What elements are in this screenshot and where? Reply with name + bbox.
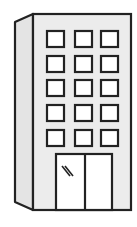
window-icon bbox=[101, 31, 118, 47]
window-icon bbox=[101, 56, 118, 72]
window-icon bbox=[47, 105, 64, 121]
window-icon bbox=[75, 31, 92, 47]
window-icon bbox=[47, 130, 64, 146]
window-icon bbox=[75, 56, 92, 72]
building-side-face bbox=[15, 14, 33, 210]
window-icon bbox=[75, 80, 92, 96]
building-illustration bbox=[0, 0, 137, 227]
window-icon bbox=[101, 105, 118, 121]
window-icon bbox=[101, 130, 118, 146]
window-icon bbox=[47, 80, 64, 96]
office-building-icon bbox=[0, 0, 137, 227]
window-icon bbox=[75, 130, 92, 146]
window-icon bbox=[47, 31, 64, 47]
entrance-door bbox=[56, 154, 112, 210]
window-icon bbox=[101, 80, 118, 96]
window-icon bbox=[47, 56, 64, 72]
window-icon bbox=[75, 105, 92, 121]
